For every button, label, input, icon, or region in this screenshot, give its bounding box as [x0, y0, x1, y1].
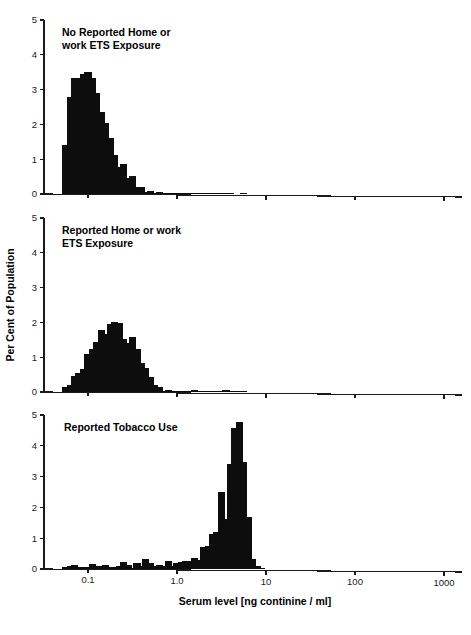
y-tick-label: 1 — [32, 533, 37, 544]
bar-series-panel-1 — [62, 72, 247, 195]
y-tick-label: 4 — [32, 49, 37, 60]
panel-title-2: Reported Home or workETS Exposure — [62, 224, 181, 249]
bar — [258, 568, 265, 569]
panel-title-line: Reported Tobacco Use — [64, 421, 178, 433]
y-ticks-panel-1: 012345 — [32, 14, 44, 199]
x-tick-label: 0.1 — [81, 574, 94, 585]
y-tick-label: 3 — [32, 84, 37, 95]
panel-title-line: Reported Home or work — [62, 224, 181, 236]
panel-1: 012345No Reported Home orwork ETS Exposu… — [32, 14, 462, 200]
x-tick-label: 1.0 — [170, 575, 183, 586]
cotinine-distribution-figure: 012345No Reported Home orwork ETS Exposu… — [0, 0, 471, 635]
x-axis-line — [44, 392, 462, 395]
x-axis-title: Serum level [ng continine / ml] — [179, 595, 331, 607]
y-tick-label: 3 — [32, 282, 37, 293]
bar — [227, 193, 234, 194]
y-tick-label: 2 — [32, 502, 37, 513]
x-tick-label: 100 — [347, 576, 363, 587]
y-tick-label: 4 — [32, 440, 37, 451]
y-tick-label: 4 — [32, 247, 37, 258]
y-ticks-panel-3: 012345 — [32, 409, 44, 574]
y-tick-label: 0 — [32, 563, 37, 574]
panel-title-3: Reported Tobacco Use — [64, 421, 178, 433]
bar-series-panel-3 — [62, 422, 265, 569]
x-tick-label: 1000 — [433, 577, 454, 588]
panel-title-line: ETS Exposure — [62, 237, 133, 249]
bar-series-panel-2 — [62, 322, 247, 392]
y-tick-label: 5 — [32, 409, 37, 420]
panel-title-line: No Reported Home or — [62, 26, 171, 38]
bar — [240, 391, 247, 392]
y-tick-label: 1 — [32, 352, 37, 363]
x-axis-line — [44, 194, 462, 197]
panel-title-1: No Reported Home orwork ETS Exposure — [61, 26, 171, 51]
bar — [240, 193, 247, 194]
x-ticks-panel-3: 0.11.0101001000 — [81, 569, 454, 588]
panel-3: 0123450.11.0101001000Reported Tobacco Us… — [32, 409, 462, 587]
y-tick-label: 2 — [32, 317, 37, 328]
panel-2: 012345Reported Home or workETS Exposure — [32, 212, 462, 398]
y-ticks-panel-2: 012345 — [32, 212, 44, 397]
y-tick-label: 0 — [32, 386, 37, 397]
figure-canvas: 012345No Reported Home orwork ETS Exposu… — [0, 0, 471, 635]
x-axis-line — [44, 569, 462, 572]
y-tick-label: 1 — [32, 154, 37, 165]
y-tick-label: 3 — [32, 471, 37, 482]
y-tick-label: 0 — [32, 188, 37, 199]
x-tick-label: 10 — [261, 576, 272, 587]
y-tick-label: 5 — [32, 212, 37, 223]
y-axis-title: Per Cent of Population — [4, 248, 16, 361]
panel-title-line: work ETS Exposure — [61, 39, 161, 51]
y-tick-label: 5 — [32, 14, 37, 25]
y-tick-label: 2 — [32, 119, 37, 130]
